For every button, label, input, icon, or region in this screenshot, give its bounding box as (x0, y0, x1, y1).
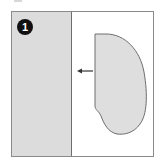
blob-shape (95, 34, 146, 134)
diagram-artwork (0, 0, 165, 166)
arrow-left-icon (77, 69, 93, 74)
